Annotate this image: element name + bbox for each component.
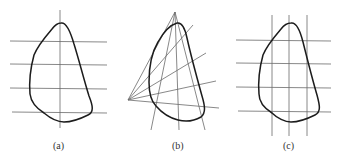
left-ray <box>128 25 193 100</box>
panel-c <box>236 15 331 136</box>
horizontal-line <box>236 63 331 64</box>
closed-shape-outline <box>30 23 93 122</box>
horizontal-line <box>10 88 107 89</box>
panel-b <box>128 12 219 130</box>
horizontal-line <box>10 41 107 42</box>
horizontal-line <box>238 111 331 112</box>
apex-ray <box>175 12 205 130</box>
horizontal-line <box>236 87 331 88</box>
horizontal-line <box>10 64 107 65</box>
left-ray <box>128 100 219 108</box>
horizontal-line <box>236 40 331 41</box>
horizontal-line <box>12 112 107 113</box>
panel-a-label: (a) <box>53 140 64 151</box>
panel-b-label: (b) <box>172 140 184 151</box>
left-ray <box>128 53 206 100</box>
panel-a <box>10 10 107 128</box>
figure-canvas <box>0 0 339 161</box>
panel-c-label: (c) <box>283 140 294 151</box>
